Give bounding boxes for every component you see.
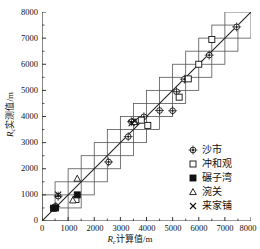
data-point (196, 61, 202, 67)
legend-marker-square-open-icon (186, 157, 202, 171)
x-axis-title: Rc计算值/m (0, 232, 260, 245)
y-axis-rest: 实测值/m (5, 92, 15, 129)
data-point (74, 192, 80, 198)
legend-label: 来家铺 (202, 200, 232, 212)
legend-marker (190, 175, 196, 181)
legend-marker-cross-icon (186, 199, 202, 213)
y-axis-title: Rc实测值/m (3, 60, 16, 170)
legend-item: 沙市 (186, 143, 258, 157)
data-point (176, 94, 182, 100)
legend-label: 沙市 (202, 144, 222, 156)
legend-label: 碾子湾 (202, 172, 232, 184)
data-point (138, 117, 144, 123)
chart-figure: 8000 7000 6000 5000 4000 3000 2000 1000 … (0, 0, 260, 249)
legend-marker-square-filled-icon (186, 171, 202, 185)
legend-item: 冲和观 (186, 157, 258, 171)
data-point (185, 76, 191, 82)
y-tick-label: 1000 (0, 189, 38, 199)
legend-label: 涴关 (202, 186, 222, 198)
data-point (74, 175, 81, 181)
y-tick-label: 8000 (0, 7, 38, 17)
series-来家铺 (55, 118, 138, 197)
data-point (209, 36, 215, 42)
y-axis-subscript: c (9, 129, 16, 132)
legend-label: 冲和观 (202, 158, 232, 170)
legend-item: 涴关 (186, 185, 258, 199)
legend-marker-circle-dot-icon (186, 143, 202, 157)
data-point (145, 122, 151, 128)
x-axis-rest: 计算值/m (116, 234, 153, 244)
data-point (53, 205, 59, 211)
series-涴关 (70, 119, 139, 203)
legend-marker (190, 161, 196, 167)
y-axis-symbol: R (5, 131, 15, 137)
legend-marker (190, 189, 197, 195)
legend-item: 碾子湾 (186, 171, 258, 185)
legend-marker-triangle-open-icon (186, 185, 202, 199)
y-tick-label: 7000 (0, 33, 38, 43)
legend: 沙市冲和观碾子湾涴关来家铺 (186, 143, 258, 213)
legend-item: 来家铺 (186, 199, 258, 213)
